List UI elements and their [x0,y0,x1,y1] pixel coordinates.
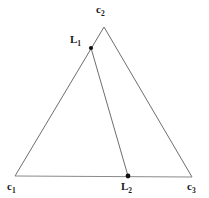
label-c1: c1 [7,181,16,192]
label-L1-subscript: 1 [77,39,81,48]
edge-L1-L2-cevian [91,48,128,176]
point-marker-L1 [89,46,93,50]
label-c1-subscript: 1 [12,186,16,195]
label-c3: c3 [187,181,196,192]
label-L1: L1 [70,34,81,45]
point-marker-L2 [126,174,131,179]
label-c2: c2 [96,4,105,15]
triangle-figure: c2 L1 c1 L2 c3 [0,0,209,198]
label-L2: L2 [121,181,132,192]
triangle-diagram-canvas [0,0,209,198]
label-c3-subscript: 3 [192,186,196,195]
edge-c1-c3-baseline [15,176,192,177]
label-L2-subscript: 2 [128,186,132,195]
label-c2-subscript: 2 [101,9,105,18]
edge-c2-c3 [104,27,192,177]
